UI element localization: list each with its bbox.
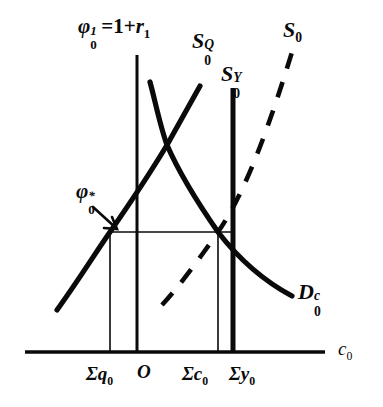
sigma-q-symbol: Σq	[86, 363, 107, 384]
supply-total-symbol: S	[283, 17, 295, 42]
phi-star-symbol: φ	[76, 179, 88, 203]
rate-subscript: 1	[144, 26, 151, 41]
supply-q-superscript: Q	[204, 38, 214, 52]
sigma-y-subscript: 0	[249, 375, 255, 388]
supply-q-symbol: S	[192, 28, 204, 53]
supply-y-symbol: S	[221, 61, 233, 86]
tick-label-sigma-c0: Σc0	[182, 364, 208, 388]
supply-y-subscript: 0	[233, 87, 240, 101]
economics-diagram: φ 1 0 =1+r1 S Q 0 S Y 0 S0 φ * 0 D c 0	[0, 0, 383, 407]
supply-q-subscript: 0	[204, 54, 211, 68]
curve-label-demand-c: D c 0	[298, 281, 325, 303]
demand-c-subscript: 0	[314, 305, 321, 319]
equilibrium-price-label: φ * 0	[76, 181, 99, 202]
tick-label-sigma-y0: Σy0	[229, 364, 255, 388]
rate-symbol: r	[136, 14, 144, 38]
phi-star-subscript: 0	[88, 203, 95, 216]
demand-c-superscript: c	[314, 289, 320, 303]
horizontal-axis-label: c0	[338, 339, 352, 363]
phi-subscript: 0	[90, 38, 97, 51]
supply-y-superscript: Y	[233, 71, 241, 85]
tick-label-origin: O	[137, 362, 151, 381]
tick-label-sigma-q0: Σq0	[86, 364, 113, 388]
demand-c-symbol: D	[298, 279, 314, 304]
supply-total-subscript: 0	[295, 30, 302, 45]
curve-label-supply-y: S Y 0	[221, 63, 245, 85]
phi-star-superscript: *	[88, 189, 95, 202]
sigma-q-subscript: 0	[107, 375, 113, 388]
curve-label-supply-q: S Q 0	[192, 30, 216, 52]
diagram-canvas	[0, 0, 383, 407]
phi-star-pointer-arrow	[93, 207, 117, 229]
curve-label-supply-total: S0	[283, 19, 302, 45]
sigma-c-subscript: 0	[202, 375, 208, 388]
equals-one-plus: =1+	[101, 14, 135, 38]
phi-superscript: 1	[90, 24, 97, 37]
c0-subscript: 0	[346, 350, 352, 363]
sigma-y-symbol: Σy	[229, 363, 249, 384]
vertical-axis-label: φ 1 0 =1+r1	[78, 16, 150, 40]
phi-symbol: φ	[78, 14, 90, 38]
sigma-c-symbol: Σc	[182, 363, 202, 384]
